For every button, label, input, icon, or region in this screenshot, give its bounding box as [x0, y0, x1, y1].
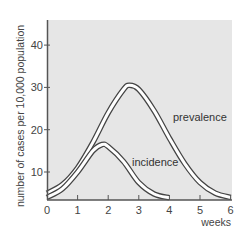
- chart: 10203040 0123456 prevalence incidence we…: [0, 0, 242, 244]
- x-tick-label: 4: [166, 204, 172, 216]
- x-tick-label: 0: [44, 204, 50, 216]
- x-axis-title: weeks: [200, 216, 231, 228]
- y-tick-label: 40: [31, 39, 43, 51]
- y-tick-label: 20: [31, 124, 43, 136]
- x-tick-label: 3: [136, 204, 142, 216]
- x-tick-label: 2: [105, 204, 111, 216]
- y-tick-label: 10: [31, 166, 43, 178]
- y-tick-label: 30: [31, 81, 43, 93]
- x-tick-label: 1: [75, 204, 81, 216]
- x-tick-label: 5: [197, 204, 203, 216]
- y-axis-title: number of cases per 10,000 population: [14, 25, 26, 207]
- incidence-label: incidence: [132, 156, 178, 168]
- x-tick-label: 6: [228, 204, 234, 216]
- prevalence-label: prevalence: [173, 111, 227, 123]
